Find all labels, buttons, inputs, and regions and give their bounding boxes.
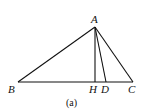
- label-h: H: [88, 83, 98, 95]
- figure-caption: (a): [66, 97, 77, 109]
- triangle-diagram: A B H D C (a): [0, 0, 148, 112]
- label-a: A: [90, 13, 98, 25]
- segment-ab: [18, 27, 95, 82]
- label-b: B: [8, 83, 15, 95]
- label-d: D: [100, 83, 109, 95]
- label-c: C: [128, 83, 136, 95]
